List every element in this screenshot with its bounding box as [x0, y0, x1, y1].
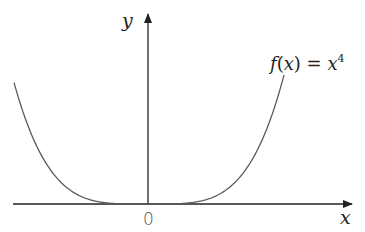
x-axis-label: x: [340, 206, 351, 228]
origin-label: 0: [143, 209, 154, 229]
function-plot: y x 0 f(x) = x4: [0, 0, 365, 232]
function-label: f(x) = x4: [268, 52, 345, 74]
y-axis-label: y: [121, 9, 133, 31]
curve-x4: [14, 75, 284, 204]
